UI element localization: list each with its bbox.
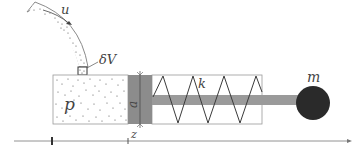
axis-origin-tick: [51, 137, 53, 145]
axis-z-tick: [128, 138, 129, 144]
mass-label: m: [307, 69, 320, 85]
piston-area-label: a: [126, 101, 140, 108]
volume-element-box: [78, 67, 87, 75]
volume-element-label: δV: [99, 52, 118, 67]
piston-spring-mass-diagram: u δV p k a m: [0, 0, 364, 153]
inflow-tube: [27, 2, 88, 67]
position-label: z: [130, 128, 137, 141]
velocity-label: u: [61, 2, 69, 17]
mass: [296, 86, 330, 120]
spring-constant-label: k: [198, 76, 206, 91]
pressure-label: p: [64, 94, 75, 114]
volume-element-leader: [87, 62, 98, 68]
axis-arrow-icon: [347, 139, 352, 143]
piston-rod: [152, 95, 302, 105]
